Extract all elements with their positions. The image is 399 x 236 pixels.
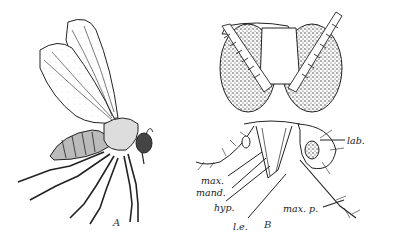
panel-label-b: B (264, 220, 271, 230)
label-maxp: max. p. (283, 204, 318, 214)
leader-max (228, 152, 262, 176)
label-lab: lab. (347, 136, 365, 146)
insect-panel-a (18, 19, 153, 224)
figure-illustration (0, 0, 399, 236)
abdomen (50, 130, 110, 160)
label-mand: mand. (196, 188, 226, 198)
leader-hyp (226, 166, 270, 201)
label-hyp: hyp. (214, 203, 235, 213)
leg (30, 154, 110, 200)
head (136, 133, 152, 153)
leader-le (248, 174, 286, 218)
thorax (104, 118, 138, 150)
label-max: max. (201, 176, 224, 186)
label-le: l.e. (233, 222, 248, 232)
leader-maxp (323, 200, 344, 207)
panel-label-a: A (113, 218, 120, 228)
leg (90, 158, 118, 224)
